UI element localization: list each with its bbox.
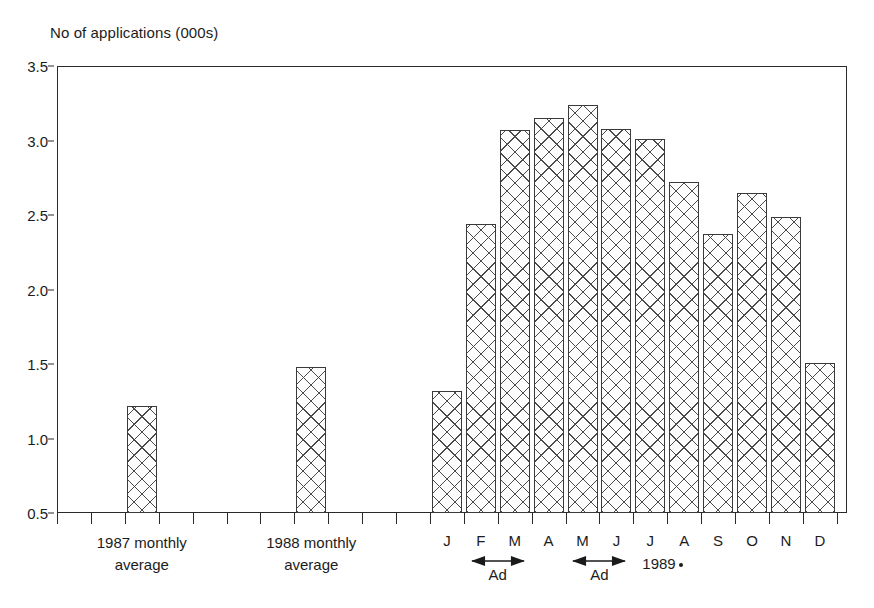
x-tick-mark — [260, 513, 261, 524]
x-tick-mark — [532, 513, 533, 524]
x-month-label: F — [476, 532, 485, 549]
x-group-label: 1987 monthlyaverage — [97, 532, 187, 576]
bar — [805, 363, 835, 513]
x-tick-mark — [294, 513, 295, 524]
x-month-label: O — [746, 532, 758, 549]
x-month-label: M — [576, 532, 589, 549]
y-tick-mark — [48, 513, 54, 514]
bar — [127, 406, 157, 513]
x-tick-mark — [667, 513, 668, 524]
plot-frame-right — [846, 66, 847, 513]
x-tick-mark — [396, 513, 397, 524]
year-dot-marker — [679, 563, 683, 567]
y-tick-mark — [48, 289, 54, 290]
bar — [669, 182, 699, 513]
ad-annotation: Ad — [470, 555, 526, 583]
x-tick-mark — [227, 513, 228, 524]
x-tick-mark — [566, 513, 567, 524]
x-group-label-line2: average — [266, 554, 356, 576]
x-tick-mark — [159, 513, 160, 524]
bar — [534, 118, 564, 513]
x-tick-mark — [57, 513, 58, 524]
x-tick-mark — [837, 513, 838, 524]
x-tick-mark — [362, 513, 363, 524]
x-tick-mark — [498, 513, 499, 524]
y-tick-label: 2.5 — [27, 207, 48, 224]
x-month-label: S — [713, 532, 723, 549]
y-tick-label: 1.0 — [27, 430, 48, 447]
x-group-label-line1: 1988 monthly — [266, 532, 356, 554]
x-tick-mark — [125, 513, 126, 524]
bar — [737, 193, 767, 513]
plot-area — [57, 66, 847, 513]
x-group-label-line2: average — [97, 554, 187, 576]
plot-frame-top — [57, 66, 847, 67]
x-group-label: 1988 monthlyaverage — [266, 532, 356, 576]
x-tick-mark — [91, 513, 92, 524]
x-tick-mark — [430, 513, 431, 524]
bar — [296, 367, 326, 513]
x-month-label: J — [443, 532, 451, 549]
x-month-label: D — [814, 532, 825, 549]
bar-chart: No of applications (000s) 3.53.02.52.01.… — [0, 0, 874, 608]
y-tick-label: 2.0 — [27, 281, 48, 298]
x-tick-mark — [633, 513, 634, 524]
x-tick-mark — [464, 513, 465, 524]
y-tick-mark — [48, 364, 54, 365]
x-tick-mark — [735, 513, 736, 524]
x-tick-mark — [328, 513, 329, 524]
x-tick-mark — [193, 513, 194, 524]
x-month-label: M — [508, 532, 521, 549]
y-tick-label: 3.0 — [27, 132, 48, 149]
bar — [432, 391, 462, 513]
ad-label: Ad — [470, 567, 526, 583]
ad-label: Ad — [571, 567, 627, 583]
ad-annotation: Ad — [571, 555, 627, 583]
x-tick-mark — [599, 513, 600, 524]
bar — [500, 130, 530, 513]
bar — [601, 129, 631, 513]
bar — [466, 224, 496, 513]
x-axis-labels: 1987 monthlyaverage1988 monthlyaverageJF… — [0, 524, 874, 608]
y-tick-mark — [48, 66, 54, 67]
y-tick-mark — [48, 438, 54, 439]
y-axis-labels: 3.53.02.52.01.51.00.5 — [0, 66, 48, 513]
x-year-label: 1989 — [642, 555, 682, 572]
x-month-label: A — [679, 532, 689, 549]
double-arrow-icon — [571, 555, 627, 567]
y-tick-label: 0.5 — [27, 505, 48, 522]
x-tick-mark — [803, 513, 804, 524]
x-group-label-line1: 1987 monthly — [97, 532, 187, 554]
y-tick-mark — [48, 215, 54, 216]
y-tick-mark — [48, 140, 54, 141]
double-arrow-icon — [470, 555, 526, 567]
y-tick-label: 3.5 — [27, 58, 48, 75]
bar — [771, 217, 801, 514]
bar — [568, 105, 598, 513]
bar — [635, 139, 665, 513]
y-tick-label: 1.5 — [27, 356, 48, 373]
x-tick-mark — [769, 513, 770, 524]
x-year-label-text: 1989 — [642, 555, 675, 572]
x-month-label: J — [613, 532, 621, 549]
x-month-label: J — [647, 532, 655, 549]
x-month-label: N — [780, 532, 791, 549]
chart-axis-title: No of applications (000s) — [50, 24, 218, 41]
plot-frame-left — [57, 66, 58, 513]
bar — [703, 234, 733, 513]
x-tick-mark — [701, 513, 702, 524]
x-month-label: A — [544, 532, 554, 549]
